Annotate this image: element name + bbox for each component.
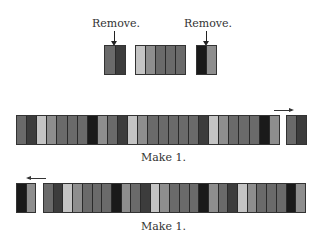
stripe bbox=[17, 116, 27, 144]
row1-main-strip bbox=[16, 115, 280, 145]
stripe bbox=[180, 184, 190, 212]
stripe bbox=[27, 184, 36, 212]
stripe bbox=[131, 184, 141, 212]
stripe bbox=[88, 116, 98, 144]
remaining-block-middle bbox=[135, 45, 186, 75]
stripe bbox=[197, 46, 207, 74]
stripe bbox=[219, 116, 229, 144]
arrow-right-icon bbox=[274, 110, 292, 111]
stripe bbox=[257, 184, 267, 212]
stripe bbox=[102, 184, 112, 212]
stripe bbox=[239, 116, 249, 144]
stripe bbox=[170, 184, 180, 212]
stripe bbox=[138, 116, 148, 144]
stripe bbox=[229, 116, 239, 144]
stripe bbox=[112, 184, 122, 212]
stripe bbox=[54, 184, 64, 212]
stripe bbox=[160, 184, 170, 212]
stripe bbox=[248, 184, 258, 212]
stripe bbox=[238, 184, 248, 212]
stripe bbox=[209, 116, 219, 144]
stripe bbox=[267, 184, 277, 212]
stripe bbox=[83, 184, 93, 212]
stripe bbox=[250, 116, 260, 144]
arrow-down-icon-right bbox=[206, 31, 207, 42]
stripe bbox=[277, 184, 287, 212]
stripe bbox=[68, 116, 78, 144]
stripe bbox=[207, 46, 216, 74]
row2-detached-block bbox=[16, 183, 36, 213]
row1-detached-block bbox=[286, 115, 307, 145]
stripe bbox=[27, 116, 37, 144]
stripe bbox=[146, 46, 156, 74]
stripe bbox=[148, 116, 158, 144]
stripe bbox=[17, 184, 27, 212]
stripe bbox=[73, 184, 83, 212]
stripe bbox=[118, 116, 128, 144]
arrow-down-icon-left bbox=[114, 31, 115, 42]
stripe bbox=[116, 46, 126, 74]
stripe bbox=[199, 116, 209, 144]
stripe bbox=[199, 184, 209, 212]
stripe bbox=[209, 184, 219, 212]
stripe bbox=[37, 116, 47, 144]
arrow-left-icon bbox=[28, 178, 46, 179]
row1-caption: Make 1. bbox=[141, 151, 186, 164]
stripe bbox=[44, 184, 54, 212]
stripe bbox=[166, 46, 176, 74]
stripe bbox=[190, 184, 200, 212]
stripe bbox=[98, 116, 108, 144]
stripe bbox=[270, 116, 279, 144]
stripe bbox=[179, 116, 189, 144]
stripe bbox=[57, 116, 67, 144]
stripe bbox=[122, 184, 132, 212]
stripe bbox=[105, 46, 116, 74]
stripe bbox=[297, 116, 306, 144]
row2-main-strip bbox=[43, 183, 306, 213]
stripe bbox=[78, 116, 88, 144]
stripe bbox=[63, 184, 73, 212]
stripe bbox=[296, 184, 305, 212]
stripe bbox=[141, 184, 151, 212]
stripe bbox=[219, 184, 229, 212]
stripe bbox=[189, 116, 199, 144]
removed-block-left bbox=[104, 45, 126, 75]
stripe bbox=[287, 116, 297, 144]
row2-caption: Make 1. bbox=[141, 220, 186, 233]
remove-label-right: Remove. bbox=[184, 17, 232, 30]
stripe bbox=[287, 184, 297, 212]
stripe bbox=[176, 46, 185, 74]
remove-label-left: Remove. bbox=[92, 17, 140, 30]
stripe bbox=[169, 116, 179, 144]
stripe bbox=[151, 184, 161, 212]
stripe bbox=[108, 116, 118, 144]
stripe bbox=[47, 116, 57, 144]
stripe bbox=[260, 116, 270, 144]
stripe bbox=[159, 116, 169, 144]
stripe bbox=[93, 184, 103, 212]
removed-block-right bbox=[196, 45, 217, 75]
stripe bbox=[136, 46, 146, 74]
stripe bbox=[156, 46, 166, 74]
stripe bbox=[228, 184, 238, 212]
stripe bbox=[128, 116, 138, 144]
